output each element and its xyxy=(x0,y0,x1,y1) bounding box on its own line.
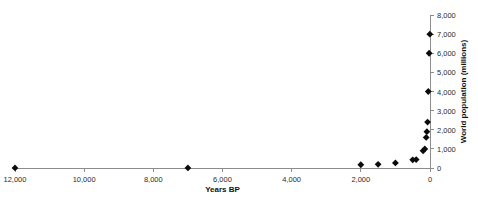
data-point xyxy=(426,50,433,57)
world-population-scatter-chart: 12,00010,0008,0006,0004,0002,0000 01,000… xyxy=(0,0,478,200)
x-tick-label: 10,000 xyxy=(73,175,96,184)
plot-area: 12,00010,0008,0006,0004,0002,0000 01,000… xyxy=(4,11,456,184)
data-point xyxy=(12,165,19,172)
y-axis-ticks: 01,0002,0003,0004,0005,0006,0007,0008,00… xyxy=(430,11,456,173)
y-tick-label: 0 xyxy=(437,164,441,173)
y-axis-title: World population (millions) xyxy=(459,39,468,143)
data-point xyxy=(357,161,364,168)
y-tick-label: 8,000 xyxy=(437,11,456,20)
y-tick-label: 3,000 xyxy=(437,107,456,116)
data-point xyxy=(423,134,430,141)
x-tick-label: 12,000 xyxy=(4,175,27,184)
data-point xyxy=(185,165,192,172)
y-tick-label: 6,000 xyxy=(437,49,456,58)
data-point xyxy=(425,88,432,95)
x-tick-label: 4,000 xyxy=(282,175,301,184)
data-point-series xyxy=(12,31,434,172)
x-axis-title: Years BP xyxy=(205,185,240,194)
data-point xyxy=(375,161,382,168)
y-tick-label: 2,000 xyxy=(437,126,456,135)
x-tick-label: 8,000 xyxy=(144,175,163,184)
x-axis-ticks: 12,00010,0008,0006,0004,0002,0000 xyxy=(4,168,433,184)
y-tick-label: 4,000 xyxy=(437,88,456,97)
data-point xyxy=(392,160,399,167)
x-tick-label: 0 xyxy=(428,175,432,184)
y-tick-label: 5,000 xyxy=(437,68,456,77)
data-point xyxy=(423,128,430,135)
y-tick-label: 7,000 xyxy=(437,30,456,39)
data-point xyxy=(426,31,433,38)
y-tick-label: 1,000 xyxy=(437,145,456,154)
x-tick-label: 6,000 xyxy=(213,175,232,184)
x-tick-label: 2,000 xyxy=(351,175,370,184)
